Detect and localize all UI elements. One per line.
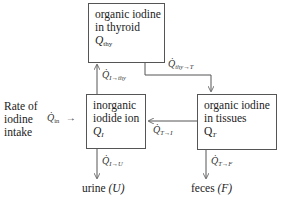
tissues-sub: T <box>212 131 216 139</box>
intake-line1: Rate of <box>4 100 38 113</box>
flow-i-to-thy: Q̇I→thy <box>102 69 126 81</box>
thyroid-line2: in thyroid <box>95 21 164 34</box>
flow-i-to-u-sub: I→U <box>109 160 122 167</box>
flow-i-to-u: Q̇I→U <box>102 155 123 167</box>
intake-flow: Q̇in → <box>47 112 76 124</box>
urine-label: urine <box>82 182 106 194</box>
flow-t-to-f: Q̇T→F <box>211 155 232 167</box>
intake-line2: iodine <box>4 113 38 126</box>
flow-t-to-i-sub: T→I <box>160 129 172 136</box>
feces-symbol: (F) <box>218 182 233 194</box>
thyroid-sub: thy <box>103 40 112 48</box>
intake-line3: intake <box>4 126 38 139</box>
inorganic-sub: I <box>101 131 103 139</box>
flow-i-to-thy-sub: I→thy <box>109 74 126 81</box>
flow-t-to-i: Q̇T→I <box>153 124 173 136</box>
urine-output: urine (U) <box>82 182 124 195</box>
tissues-line2: in tissues <box>204 112 276 125</box>
thyroid-line1: organic iodine <box>95 8 164 21</box>
intake-arrow-icon: → <box>66 112 76 123</box>
flow-thy-to-t: Q̇thy→T <box>168 58 193 70</box>
tissues-symbol: QT <box>204 125 276 142</box>
inorganic-line1: inorganic <box>93 99 145 112</box>
thyroid-symbol: Qthy <box>95 34 164 51</box>
feces-output: feces (F) <box>191 182 232 195</box>
flow-t-to-f-sub: T→F <box>218 160 232 167</box>
tissues-line1: organic iodine <box>204 99 276 112</box>
tissues-compartment: organic iodine in tissues QT <box>197 94 277 150</box>
feces-label: feces <box>191 182 215 194</box>
inorganic-compartment: inorganic iodide ion QI <box>86 94 146 149</box>
inorganic-symbol: QI <box>93 125 145 142</box>
inorganic-line2: iodide ion <box>93 112 145 125</box>
flow-thy-to-t-sub: thy→T <box>175 63 193 70</box>
intake-label: Rate of iodine intake <box>4 100 38 139</box>
thyroid-compartment: organic iodine in thyroid Qthy <box>88 3 165 63</box>
urine-symbol: (U) <box>109 182 125 194</box>
intake-flow-sub: in <box>54 117 59 124</box>
